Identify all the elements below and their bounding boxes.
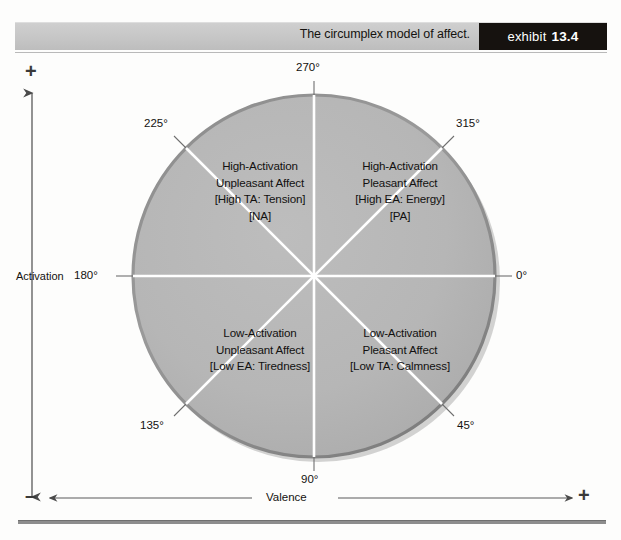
exhibit-header-bar: The circumplex model of affect. exhibit …: [15, 22, 607, 50]
quadrant-line-4: [PA]: [326, 208, 474, 225]
exhibit-badge: exhibit 13.4: [479, 23, 607, 50]
quadrant-line-3: [High EA: Energy]: [326, 191, 474, 208]
quadrant-line-3: [Low TA: Calmness]: [322, 358, 478, 375]
valence-axis-label: Valence: [266, 491, 307, 503]
quadrant-line-3: [High TA: Tension]: [186, 191, 334, 208]
circumplex-spokes: [133, 95, 495, 457]
exhibit-badge-word: exhibit: [507, 29, 546, 44]
quadrant-line-2: Unpleasant Affect: [182, 342, 338, 359]
degree-label-180: 180°: [74, 269, 98, 281]
valence-axis-group: [50, 490, 572, 506]
degree-label-0: 0°: [516, 269, 527, 281]
footer-divider: [18, 520, 606, 524]
quadrant-line-2: Unpleasant Affect: [186, 175, 334, 192]
quadrant-high-activation-unpleasant: High-Activation Unpleasant Affect [High …: [186, 158, 334, 224]
exhibit-title: The circumplex model of affect.: [300, 27, 470, 41]
quadrant-low-activation-pleasant: Low-Activation Pleasant Affect [Low TA: …: [322, 325, 478, 375]
quadrant-line-1: Low-Activation: [322, 325, 478, 342]
quadrant-low-activation-unpleasant: Low-Activation Unpleasant Affect [Low EA…: [182, 325, 338, 375]
degree-label-135: 135°: [140, 419, 164, 431]
degree-label-315: 315°: [456, 117, 480, 129]
degree-label-45: 45°: [457, 419, 474, 431]
quadrant-line-2: Pleasant Affect: [322, 342, 478, 359]
quadrant-line-1: Low-Activation: [182, 325, 338, 342]
exhibit-badge-number: 13.4: [551, 29, 578, 44]
valence-plus-sign: +: [578, 485, 590, 505]
activation-plus-sign: +: [25, 61, 37, 81]
activation-axis-label: Activation: [16, 270, 64, 282]
degree-label-90: 90°: [301, 473, 318, 485]
degree-label-225: 225°: [144, 117, 168, 129]
quadrant-line-1: High-Activation: [186, 158, 334, 175]
quadrant-line-1: High-Activation: [326, 158, 474, 175]
quadrant-high-activation-pleasant: High-Activation Pleasant Affect [High EA…: [326, 158, 474, 224]
quadrant-line-2: Pleasant Affect: [326, 175, 474, 192]
degree-label-270: 270°: [296, 61, 320, 73]
header-divider: [15, 52, 607, 53]
circumplex-diagram: 0° 180° 270° 90° 225° 315° 135° 45° High…: [0, 55, 621, 510]
circumplex-canvas: [0, 55, 621, 510]
quadrant-line-3: [Low EA: Tiredness]: [182, 358, 338, 375]
valence-minus-sign: –: [25, 485, 36, 505]
quadrant-line-4: [NA]: [186, 208, 334, 225]
